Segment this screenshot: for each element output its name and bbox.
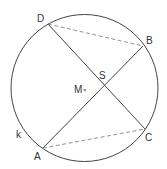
chord-dc <box>48 24 145 129</box>
circle-chord-diagram: D B S M × k C A <box>0 0 167 169</box>
label-c: C <box>145 132 152 143</box>
dashed-segment-db <box>48 24 143 46</box>
label-b: B <box>146 35 153 46</box>
label-d: D <box>37 13 44 24</box>
chord-ab <box>43 46 143 148</box>
label-s: S <box>99 70 106 81</box>
label-m: M <box>74 84 82 95</box>
center-marker: × <box>83 87 87 93</box>
label-k: k <box>16 129 22 140</box>
label-a: A <box>34 151 41 162</box>
